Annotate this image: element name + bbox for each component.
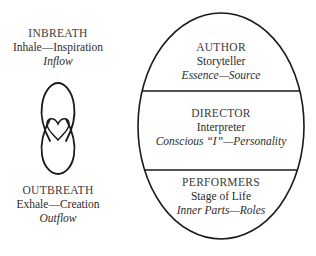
outbreath-heading: OUTBREATH bbox=[0, 183, 116, 197]
oval-section-performers: PERFORMERS Stage of Life Inner Parts—Rol… bbox=[150, 175, 292, 217]
inbreath-subtitle: Inhale—Inspiration bbox=[0, 40, 116, 54]
inbreath-heading: INBREATH bbox=[0, 26, 116, 40]
author-subtitle: Storyteller bbox=[150, 54, 292, 68]
inbreath-italic: Inflow bbox=[0, 54, 116, 68]
director-heading: DIRECTOR bbox=[150, 106, 292, 120]
author-heading: AUTHOR bbox=[150, 40, 292, 54]
oval-section-author: AUTHOR Storyteller Essence—Source bbox=[150, 40, 292, 82]
oval-section-director: DIRECTOR Interpreter Conscious “I”—Perso… bbox=[150, 106, 292, 148]
director-italic: Conscious “I”—Personality bbox=[150, 134, 292, 148]
author-italic: Essence—Source bbox=[150, 68, 292, 82]
performers-subtitle: Stage of Life bbox=[150, 189, 292, 203]
outbreath-italic: Outflow bbox=[0, 211, 116, 225]
figure-eight-with-heart-icon bbox=[41, 83, 74, 174]
outbreath-block: OUTBREATH Exhale—Creation Outflow bbox=[0, 183, 116, 225]
performers-italic: Inner Parts—Roles bbox=[150, 203, 292, 217]
inbreath-block: INBREATH Inhale—Inspiration Inflow bbox=[0, 26, 116, 68]
performers-heading: PERFORMERS bbox=[150, 175, 292, 189]
director-subtitle: Interpreter bbox=[150, 120, 292, 134]
outbreath-subtitle: Exhale—Creation bbox=[0, 197, 116, 211]
